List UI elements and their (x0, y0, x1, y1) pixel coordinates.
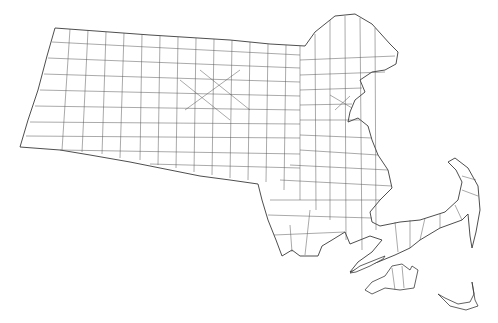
marthas-vineyard (365, 264, 418, 294)
massachusetts-town-map (0, 0, 498, 323)
nantucket (438, 282, 478, 310)
